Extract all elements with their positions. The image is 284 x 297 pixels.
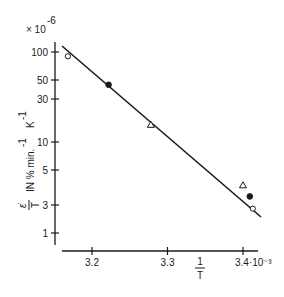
y-tick-label: 50 xyxy=(37,75,49,86)
y-tick-label: 10 xyxy=(37,137,49,148)
triangle-marker xyxy=(240,182,247,188)
filled-circle-marker xyxy=(247,194,253,200)
svg-text:K: K xyxy=(25,121,36,128)
y-tick-label: 3 xyxy=(42,200,48,211)
x-tick-label: 3.2 xyxy=(85,257,99,268)
svg-text:T: T xyxy=(197,270,203,281)
fit-line xyxy=(62,46,261,217)
y-scale-factor: × 10 xyxy=(26,24,46,35)
svg-text:1: 1 xyxy=(197,256,203,267)
svg-text:-1: -1 xyxy=(17,111,28,120)
chart: × 10 -6 100503010531 3.23.33.4·10⁻³ 1 T … xyxy=(0,0,284,297)
svg-text:ε̇: ε̇ xyxy=(17,203,28,208)
svg-text:-1: -1 xyxy=(17,138,28,147)
x-axis-label: 1 T xyxy=(195,256,205,281)
x-tick-label: 3.3 xyxy=(161,257,175,268)
filled-circle-marker xyxy=(106,82,112,88)
open-circle-marker xyxy=(65,54,70,59)
svg-text:T: T xyxy=(30,202,41,208)
y-tick-label: 5 xyxy=(42,165,48,176)
open-circle-marker xyxy=(250,206,255,211)
x-ticks: 3.23.33.4·10⁻³ xyxy=(85,247,272,268)
x-tick-label: 3.4·10⁻³ xyxy=(235,257,272,268)
y-tick-label: 30 xyxy=(37,94,49,105)
svg-text:IN % min.: IN % min. xyxy=(25,149,36,192)
y-scale-factor-exp: -6 xyxy=(47,15,56,26)
y-tick-label: 100 xyxy=(31,47,48,58)
y-tick-label: 1 xyxy=(42,228,48,239)
y-axis-label: ε̇ T IN % min. -1 K -1 xyxy=(17,111,41,210)
